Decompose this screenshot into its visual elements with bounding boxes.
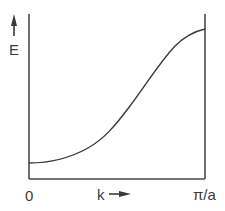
x-end-label: π/a [193,187,216,202]
x-origin-label: 0 [25,188,33,203]
up-arrow-icon [11,14,17,36]
dispersion-diagram [0,0,225,211]
right-arrow-icon [109,191,131,197]
x-axis-label: k [97,187,105,202]
y-axis-label: E [9,42,19,57]
dispersion-curve [29,29,205,163]
